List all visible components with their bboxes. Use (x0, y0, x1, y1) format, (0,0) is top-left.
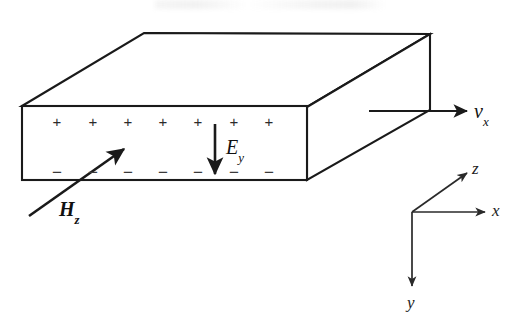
charge-negative: − (50, 164, 64, 181)
charge-positive: + (191, 114, 205, 129)
axis-label-x: x (492, 202, 500, 219)
charge-negative: − (227, 164, 241, 181)
axis-label-y: y (407, 294, 415, 311)
charge-positive: + (50, 114, 64, 129)
charge-positive: + (156, 114, 170, 129)
charge-negative: − (191, 164, 205, 181)
charge-positive: + (121, 114, 135, 129)
hall-field-symbol: E (226, 136, 238, 158)
charge-negative: − (86, 164, 100, 181)
figure-canvas: + + + + + + + − − − − − − − Ey Hz vx z x… (0, 0, 514, 325)
hall-field-subscript: y (238, 150, 244, 165)
hall-field-label: Ey (226, 137, 244, 161)
coordinate-triad-lines (412, 173, 485, 286)
charge-positive: + (227, 114, 241, 129)
charge-negative: − (121, 164, 135, 181)
drift-velocity-symbol: v (474, 100, 483, 122)
drift-velocity-subscript: x (483, 114, 489, 129)
magnetic-field-subscript: z (75, 212, 80, 227)
charge-positive: + (262, 114, 276, 129)
magnetic-field-symbol: H (59, 198, 75, 220)
drift-velocity-label: vx (474, 101, 489, 125)
charge-negative: − (156, 164, 170, 181)
charge-positive: + (86, 114, 100, 129)
hall-effect-diagram (0, 0, 514, 325)
charge-negative: − (262, 164, 276, 181)
magnetic-field-label: Hz (59, 199, 80, 223)
axis-label-z: z (472, 160, 479, 177)
